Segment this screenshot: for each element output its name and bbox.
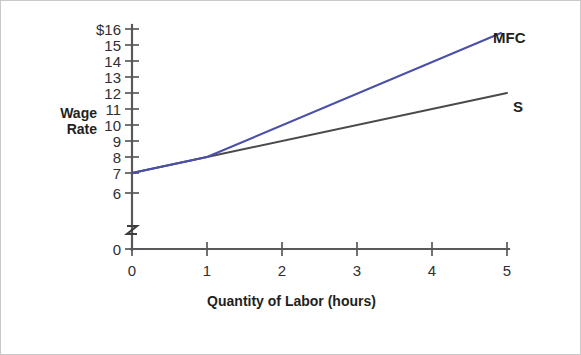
series-label-mfc: MFC bbox=[493, 30, 526, 45]
chart-figure: $16 15 14 13 12 11 10 9 8 7 6 0 0 1 2 3 … bbox=[0, 0, 581, 355]
x-tick-label-0: 0 bbox=[112, 263, 152, 278]
y-tick-label-14: 14 bbox=[57, 54, 121, 69]
chart-plot-area: $16 15 14 13 12 11 10 9 8 7 6 0 0 1 2 3 … bbox=[1, 1, 580, 354]
y-tick-label-6: 6 bbox=[57, 186, 121, 201]
y-tick-label-8: 8 bbox=[57, 150, 121, 165]
x-tick-label-4: 4 bbox=[412, 263, 452, 278]
y-tick-label-0: 0 bbox=[57, 242, 121, 257]
y-tick-label-16: $16 bbox=[57, 22, 121, 37]
y-tick-label-13: 13 bbox=[57, 70, 121, 85]
y-tick-label-12: 12 bbox=[57, 86, 121, 101]
x-tick-label-5: 5 bbox=[487, 263, 527, 278]
series-label-supply: S bbox=[513, 99, 523, 114]
x-axis-title: Quantity of Labor (hours) bbox=[1, 293, 581, 309]
y-tick-label-15: 15 bbox=[57, 38, 121, 53]
y-tick-label-7: 7 bbox=[57, 166, 121, 181]
x-tick-label-3: 3 bbox=[337, 263, 377, 278]
series-line-mfc bbox=[132, 33, 501, 173]
y-axis-title-text: WageRate bbox=[60, 105, 97, 137]
x-tick-label-1: 1 bbox=[187, 263, 227, 278]
x-tick-label-2: 2 bbox=[262, 263, 302, 278]
y-axis-title: WageRate bbox=[29, 105, 97, 137]
